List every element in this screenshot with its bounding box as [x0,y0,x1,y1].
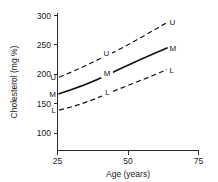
x-axis-title: Age (years) [106,169,150,179]
curve-label-M-mid: M [104,69,111,78]
x-tick-label-25: 25 [53,156,63,166]
curve-label-U-mid: U [104,49,110,58]
y-axis-title: Cholesterol (mg %) [9,45,19,118]
curve-label-L-left: L [52,106,57,115]
cholesterol-age-chart: 300 250 200 150 100 25 50 75 Age (years)… [0,0,218,182]
x-axis-ticks [58,151,199,156]
chart-axes [58,13,199,151]
y-tick-label-200: 200 [37,69,51,79]
curve-label-U-right: U [170,18,176,27]
curve-label-M-left: M [49,90,56,99]
y-tick-label-300: 300 [37,11,51,21]
y-tick-label-250: 250 [37,40,51,50]
y-tick-label-100: 100 [37,128,51,138]
x-tick-label-75: 75 [194,156,204,166]
curve-label-L-mid: L [105,88,110,97]
y-tick-label-150: 150 [37,99,51,109]
curve-label-U-left: U [50,73,56,82]
curve-label-L-right: L [170,66,175,75]
curve-label-M-right: M [170,44,177,53]
x-tick-label-50: 50 [123,156,133,166]
chart-plot-area: 300 250 200 150 100 25 50 75 Age (years)… [0,0,218,182]
